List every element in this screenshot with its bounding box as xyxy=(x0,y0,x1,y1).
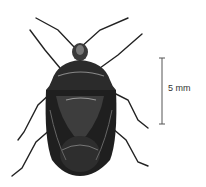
insect-illustration xyxy=(0,0,150,187)
scale-bar-label: 5 mm xyxy=(168,83,191,93)
scale-bar: 5 mm xyxy=(150,50,206,140)
